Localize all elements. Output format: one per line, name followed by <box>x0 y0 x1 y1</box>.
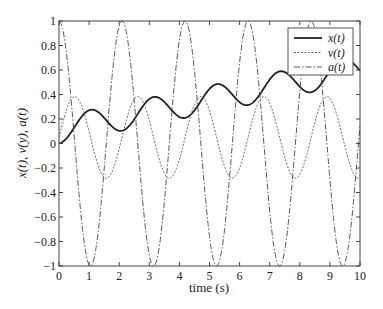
legend-label: v(t) <box>328 46 345 60</box>
legend: x(t)v(t)a(t) <box>288 28 353 75</box>
y-tick-label: 1 <box>50 14 56 28</box>
legend-label: a(t) <box>328 60 345 74</box>
x-tick-label: 6 <box>237 269 243 283</box>
y-tick-label: −1 <box>43 259 56 273</box>
y-tick-label: −0.2 <box>34 161 56 175</box>
y-tick-label: −0.4 <box>34 186 56 200</box>
y-tick-label: 0 <box>50 137 56 151</box>
x-tick-label: 4 <box>176 269 182 283</box>
x-axis-label: time (s) <box>189 280 229 295</box>
x-tick-label: 8 <box>297 269 303 283</box>
x-tick-label: 10 <box>354 269 366 283</box>
y-tick-label: −0.6 <box>34 210 56 224</box>
x-tick-label: 1 <box>86 269 92 283</box>
y-tick-label: −0.8 <box>34 235 56 249</box>
y-tick-label: 0.2 <box>41 112 56 126</box>
y-tick-label: 0.4 <box>41 88 56 102</box>
x-tick-label: 0 <box>56 269 62 283</box>
y-tick-label: 0.8 <box>41 39 56 53</box>
line-chart: 012345678910−1−0.8−0.6−0.4−0.200.20.40.6… <box>0 0 383 309</box>
x-tick-label: 2 <box>116 269 122 283</box>
x-tick-label: 9 <box>327 269 333 283</box>
x-tick-label: 7 <box>267 269 273 283</box>
x-tick-label: 3 <box>146 269 152 283</box>
legend-label: x(t) <box>327 31 345 45</box>
y-axis-label: x(t), v(y), a(t) <box>14 108 29 179</box>
y-tick-label: 0.6 <box>41 63 56 77</box>
